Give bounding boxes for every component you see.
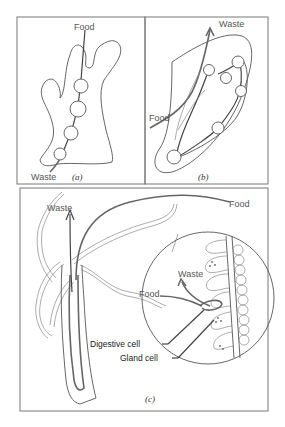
panel-c-label: (c) — [145, 394, 155, 404]
panel-b-food-label: Food — [149, 113, 170, 123]
gland-cell-label: Gland cell — [120, 353, 158, 363]
digestion-figure: Food Waste (a) Waste Food (b) — [0, 0, 285, 427]
panel-c-food-inset-label: Food — [139, 289, 160, 299]
panel-c-food-top-label: Food — [229, 199, 250, 209]
panel-b-paramecium: Waste Food (b) — [149, 19, 252, 182]
panel-a-waste-label: Waste — [31, 172, 56, 182]
panel-c-waste-inset-label: Waste — [178, 269, 203, 279]
panel-c-inset: Waste Food Digestive cell Gland cell — [90, 232, 274, 364]
panel-c-waste-top-label: Waste — [47, 203, 72, 213]
digestive-cell-label: Digestive cell — [90, 339, 140, 349]
figure-caption-cropped — [20, 418, 270, 427]
panel-b-label: (b) — [198, 172, 209, 182]
panel-c-frame — [20, 188, 268, 411]
panel-a-amoeba: Food Waste (a) — [31, 22, 121, 182]
panel-a-label: (a) — [72, 172, 83, 182]
panel-a-food-label: Food — [74, 22, 95, 32]
panel-a-frame — [17, 17, 145, 184]
panel-b-waste-label: Waste — [219, 19, 244, 29]
